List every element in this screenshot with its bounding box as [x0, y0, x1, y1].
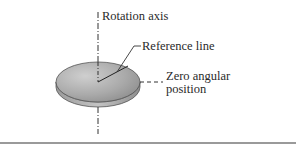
rotation-axis-label: Rotation axis — [102, 10, 168, 23]
reference-line-label: Reference line — [142, 40, 215, 53]
bottom-divider — [0, 142, 296, 144]
rotation-diagram: Rotation axis Reference line Zero angula… — [0, 0, 307, 149]
zero-angular-label-line2: position — [166, 83, 206, 96]
